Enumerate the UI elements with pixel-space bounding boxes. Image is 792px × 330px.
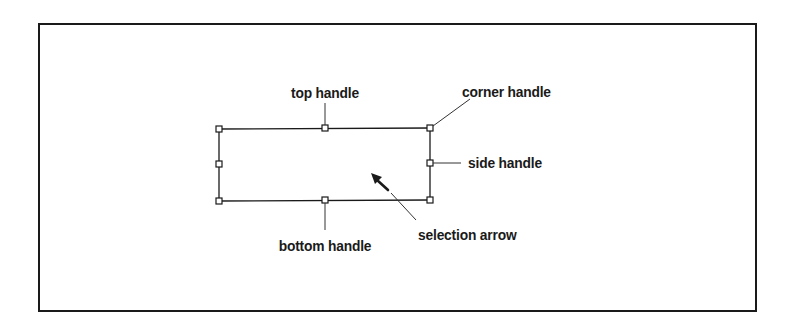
top-handle-label: top handle xyxy=(284,84,367,101)
corner-handle-top-right[interactable] xyxy=(427,125,433,131)
corner-handle-label: corner handle xyxy=(462,83,551,100)
top-handle[interactable] xyxy=(322,125,328,131)
corner-handle-bottom-left[interactable] xyxy=(216,198,222,204)
selected-rectangle xyxy=(219,128,430,201)
selection-diagram xyxy=(0,0,792,330)
selection-arrow-label: selection arrow xyxy=(418,226,516,243)
selection-arrow-leader xyxy=(391,193,416,220)
selection-arrow-icon xyxy=(371,173,388,190)
corner-handle-leader xyxy=(433,99,470,126)
side-handle-left[interactable] xyxy=(216,161,222,167)
side-handle-right[interactable] xyxy=(427,160,433,166)
corner-handle-bottom-right[interactable] xyxy=(427,197,433,203)
corner-handle-top-left[interactable] xyxy=(216,126,222,132)
side-handle-label: side handle xyxy=(468,154,542,171)
bottom-handle-label: bottom handle xyxy=(267,237,383,254)
bottom-handle[interactable] xyxy=(322,197,328,203)
